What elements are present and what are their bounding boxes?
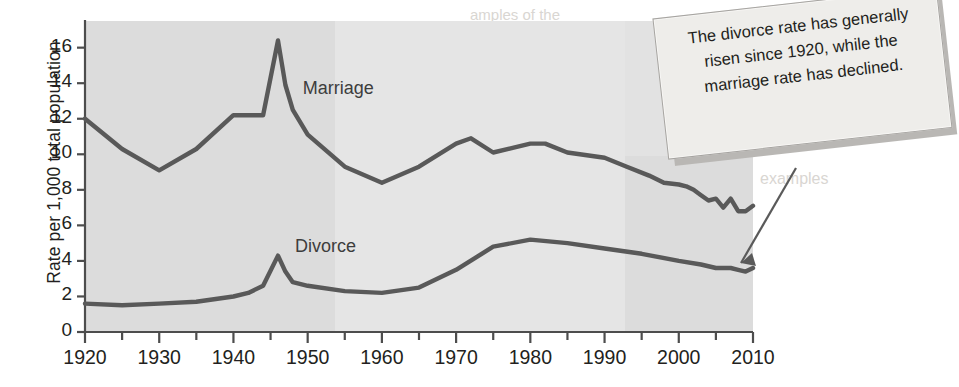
series-label-divorce: Divorce	[295, 236, 356, 257]
screenshot-root: amples of the out examples Styles of the…	[0, 0, 959, 387]
callout-text: The divorce rate has generally risen sin…	[669, 0, 934, 102]
series-group	[85, 41, 753, 306]
callout-leader-arrow	[741, 168, 796, 266]
leader-line	[741, 168, 796, 263]
axis-group	[77, 20, 753, 343]
series-label-marriage: Marriage	[303, 78, 374, 99]
